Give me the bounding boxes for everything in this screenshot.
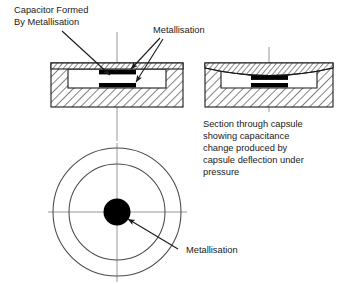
section-caption-line-4: capsule deflection under (203, 155, 304, 165)
metallisation-plan-line-1: Metallisation (186, 245, 238, 255)
upper-metallisation-plate-right (251, 76, 288, 80)
capacitor-formed-line-1: Capacitor Formed (14, 5, 88, 15)
diaphragm-skin-left (51, 63, 183, 69)
metallisation-label-top: Metallisation (153, 25, 205, 35)
section-caption-line-2: showing capacitance (203, 131, 289, 141)
lower-metallisation-plate-left (99, 83, 136, 87)
metallisation-disc (104, 199, 131, 226)
section-through-capsule-caption: Section through capsule showing capacita… (203, 119, 304, 177)
metallisation-top-line-1: Metallisation (153, 25, 205, 35)
undeflected-capsule-section (51, 63, 183, 107)
capacitor-formed-by-metallisation-label: Capacitor Formed By Metallisation (14, 5, 88, 27)
capacitive-capsule-diagram: Capacitor Formed By Metallisation Metall… (0, 0, 340, 284)
capsule-plan-view (48, 143, 187, 282)
section-caption-line-5: pressure (203, 167, 239, 177)
capacitor-formed-line-2: By Metallisation (14, 17, 79, 27)
lower-metallisation-plate-right (251, 83, 288, 87)
metallisation-label-plan: Metallisation (186, 245, 238, 255)
section-caption-line-1: Section through capsule (203, 119, 303, 129)
section-caption-line-3: change produced by (203, 143, 288, 153)
figure-root: Capacitor Formed By Metallisation Metall… (0, 0, 340, 284)
deflected-capsule-section (205, 63, 333, 107)
